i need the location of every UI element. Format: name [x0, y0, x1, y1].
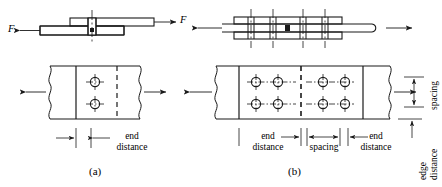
panel-b-edge-distance-line2: distance — [429, 149, 439, 180]
panel-a-end-distance-line1: end — [112, 131, 152, 142]
panel-a-dim-end-distance — [91, 128, 110, 148]
panel-b-caption: (b) — [288, 166, 301, 177]
panel-b-break-left — [215, 66, 217, 119]
panel-b-end-distance-right-line2: distance — [352, 142, 400, 153]
panel-b-edge-distance-line1: edge — [418, 162, 428, 180]
panel-b-end-distance-left-line2: distance — [244, 142, 292, 153]
panel-b-splice-plate-top — [234, 17, 342, 24]
panel-a-upper-plate — [70, 18, 154, 26]
panel-a-force-label-left: F — [8, 23, 14, 34]
panel-b-plan-outline — [216, 66, 390, 119]
panel-a-end-distance-label: end distance — [112, 131, 166, 152]
panel-b-right-member — [322, 24, 376, 32]
bolted-connection-figure: F F end distance (a) end distance spacin… — [0, 0, 442, 187]
figure-linework — [0, 0, 442, 187]
panel-b-joint-gap — [285, 25, 290, 31]
panel-b-spacing-vertical-label: spacing — [429, 81, 439, 110]
panel-a-bolt-2 — [86, 96, 104, 112]
panel-b-end-distance-left-line1: end — [244, 131, 292, 142]
panel-b-dim-edge-distance — [398, 119, 422, 138]
panel-b-spacing-horizontal-label: spacing — [300, 142, 348, 152]
panel-b-end-distance-left-label: end distance — [244, 131, 292, 152]
panel-a-force-label-right: F — [180, 14, 186, 25]
panel-a-end-distance-line2: distance — [112, 142, 152, 153]
panel-a-caption: (a) — [89, 166, 101, 177]
panel-a-break-right — [139, 66, 141, 119]
panel-b-left-member — [222, 24, 322, 32]
panel-b-end-distance-right-label: end distance — [352, 131, 400, 152]
panel-a-dim-edge — [56, 128, 76, 148]
panel-a-bolt-1 — [86, 74, 104, 90]
panel-b-splice-plate-bottom — [234, 32, 342, 39]
panel-b-end-distance-right-line1: end — [352, 131, 400, 142]
panel-b-break-right — [389, 66, 391, 119]
panel-a-break-left — [49, 66, 51, 119]
